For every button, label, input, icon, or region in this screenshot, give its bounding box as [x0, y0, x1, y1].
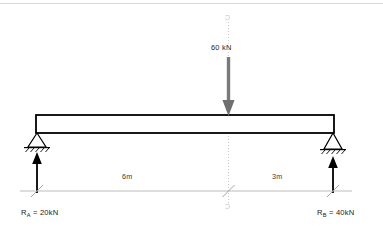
reaction-arrow-a — [32, 152, 42, 193]
dimension-label-right: 3m — [272, 172, 282, 181]
centerline-mark-bottom: C — [225, 203, 230, 210]
reaction-b-subscript: B — [323, 212, 327, 218]
reaction-a-value: 20kN — [40, 208, 59, 217]
reaction-a-symbol: R — [21, 208, 27, 217]
point-load-arrow — [222, 57, 234, 116]
reaction-a-equals: = — [31, 208, 40, 217]
reaction-b-symbol: R — [317, 208, 323, 217]
beam-diagram-graphics — [0, 0, 383, 229]
point-load-label: 60 kN — [211, 43, 232, 52]
dimension-label-left: 6m — [122, 172, 132, 181]
beam-diagram-canvas: 60 kN 6m 3m RA = 20kN RB = 40kN C C — [0, 0, 383, 229]
reaction-label-b: RB = 40kN — [317, 208, 354, 217]
centerline-mark-top: C — [225, 14, 230, 21]
beam-member — [36, 115, 334, 133]
reaction-a-subscript: A — [27, 212, 31, 218]
reaction-b-value: 40kN — [336, 208, 355, 217]
support-pinned-right — [320, 133, 346, 154]
dimension-line — [20, 185, 352, 197]
reaction-label-a: RA = 20kN — [21, 208, 58, 217]
support-pinned-left — [24, 133, 50, 152]
reaction-b-equals: = — [327, 208, 336, 217]
